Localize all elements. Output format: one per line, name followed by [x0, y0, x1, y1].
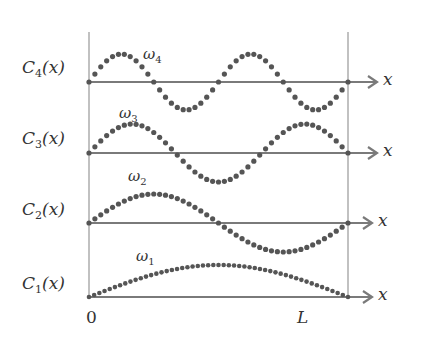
- omega2-sub: 2: [140, 176, 146, 187]
- curves-group: [86, 52, 350, 300]
- omega2-main: ω: [128, 167, 140, 185]
- c4-label: C4(x): [22, 57, 65, 80]
- c3-label-sub: 3: [35, 138, 42, 151]
- omega1-label: ω1: [136, 247, 155, 267]
- c2-axis-x-label: x: [378, 210, 388, 230]
- c4-label-tail: (x): [42, 57, 65, 77]
- c2-label-tail: (x): [42, 199, 65, 219]
- omega3-sub: 3: [131, 113, 137, 124]
- omega1-main: ω: [136, 247, 148, 265]
- c4-label-sub: 4: [35, 67, 42, 80]
- c3-label: C3(x): [22, 128, 65, 151]
- origin-label: 0: [86, 307, 97, 327]
- c1-axis-x-label: x: [378, 284, 388, 304]
- c1-label-main: C: [22, 273, 35, 293]
- standing-wave-modes-diagram: C4(x) ω4 x C3(x) ω3 x C2(x) ω2 x C1(x) ω…: [0, 0, 425, 345]
- c1-label-tail: (x): [42, 273, 65, 293]
- c2-label-sub: 2: [35, 209, 42, 222]
- omega3-label: ω3: [119, 104, 138, 124]
- omega2-label: ω2: [128, 167, 147, 187]
- omega4-main: ω: [143, 45, 155, 63]
- omega3-main: ω: [119, 104, 131, 122]
- length-label: L: [297, 307, 308, 327]
- c4-label-main: C: [22, 57, 35, 77]
- c1-label-sub: 1: [35, 283, 42, 296]
- c4-axis-x-label: x: [383, 69, 393, 89]
- c3-axis-x-label: x: [383, 140, 393, 160]
- c3-label-tail: (x): [42, 128, 65, 148]
- c2-label: C2(x): [22, 199, 65, 222]
- c3-label-main: C: [22, 128, 35, 148]
- omega1-sub: 1: [148, 256, 154, 267]
- c2-label-main: C: [22, 199, 35, 219]
- c1-label: C1(x): [22, 273, 65, 296]
- omega4-label: ω4: [143, 45, 162, 65]
- omega4-sub: 4: [155, 54, 161, 65]
- c1-curve: [87, 263, 351, 300]
